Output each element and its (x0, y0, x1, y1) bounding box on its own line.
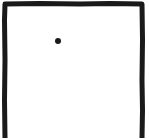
door-knob (55, 38, 61, 44)
door-frame (5, 4, 143, 139)
sketch-canvas: door (0, 0, 149, 138)
door-sketch-icon (0, 0, 149, 138)
